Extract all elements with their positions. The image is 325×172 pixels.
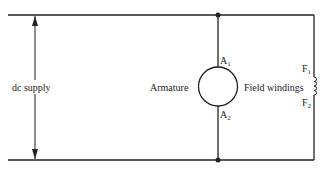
- field-coil-icon: [314, 77, 317, 95]
- terminal-f1: F1: [302, 63, 312, 76]
- shunt-motor-circuit: dc supply Armature A1 A2 Field windings …: [0, 0, 325, 172]
- field-windings-label: Field windings: [244, 82, 304, 93]
- dc-supply-label: dc supply: [12, 82, 51, 93]
- terminal-f2: F2: [302, 97, 312, 110]
- armature-circle: [199, 67, 238, 106]
- armature-label: Armature: [150, 82, 189, 93]
- terminal-a2: A2: [220, 109, 231, 122]
- terminal-a1: A1: [220, 55, 231, 68]
